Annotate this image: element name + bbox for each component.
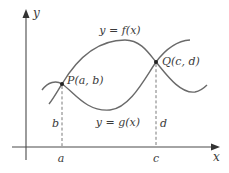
point-p-marker (60, 82, 64, 86)
point-p-label: P(a, b) (66, 74, 104, 87)
y-axis-arrow-icon (23, 9, 30, 18)
point-q-marker (154, 60, 158, 64)
value-d-label: d (160, 117, 167, 130)
y-axis-label: y (32, 6, 40, 20)
x-axis-label: x (213, 150, 220, 164)
tick-c-label: c (153, 152, 159, 165)
curve-g-label: y = g(x) (95, 116, 140, 129)
curve-f (49, 40, 207, 104)
value-b-label: b (52, 117, 59, 130)
curve-f-label: y = f(x) (98, 24, 140, 37)
point-q-label: Q(c, d) (162, 55, 200, 68)
diagram-canvas: y x y = f(x) y = g(x) P(a, b) Q(c, d) b … (0, 0, 229, 173)
intersecting-curves-diagram: y x y = f(x) y = g(x) P(a, b) Q(c, d) b … (0, 0, 229, 173)
tick-a-label: a (58, 152, 65, 165)
